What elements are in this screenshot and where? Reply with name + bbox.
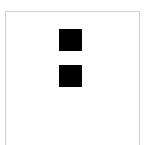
top-square — [59, 29, 82, 51]
bottom-square — [59, 65, 82, 87]
bordered-panel — [5, 11, 140, 145]
two-square-glyph — [59, 29, 82, 87]
screenshot-canvas — [0, 0, 146, 145]
